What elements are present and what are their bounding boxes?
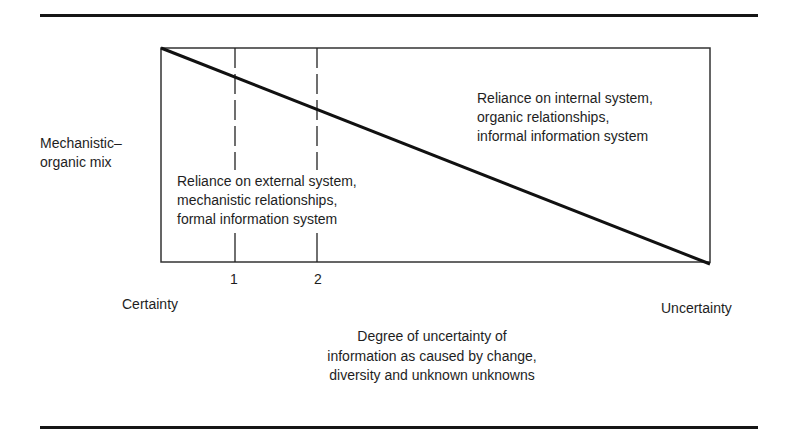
- bottom-rule: [40, 426, 758, 429]
- x-axis-left-label: Certainty: [122, 295, 178, 314]
- y-axis-label: Mechanistic– organic mix: [40, 134, 122, 172]
- x-tick-1: 1: [226, 270, 242, 289]
- x-axis-right-label: Uncertainty: [661, 299, 732, 318]
- x-axis-title: Degree of uncertainty of information as …: [232, 327, 632, 386]
- mix-diagonal-line: [161, 48, 710, 264]
- x-tick-2: 2: [310, 270, 326, 289]
- region-internal-label: Reliance on internal system, organic rel…: [477, 89, 653, 146]
- region-external-label: Reliance on external system, mechanistic…: [177, 172, 357, 229]
